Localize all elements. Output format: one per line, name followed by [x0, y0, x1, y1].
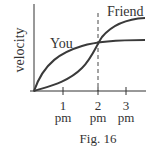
label-you: You: [50, 36, 73, 51]
curve-friend: [34, 18, 145, 91]
tick-unit-1: pm: [55, 110, 72, 125]
tick-unit-3: pm: [118, 110, 135, 125]
y-axis-label: velocity: [12, 27, 27, 72]
figure-caption: Fig. 16: [80, 131, 117, 146]
label-friend: Friend: [107, 4, 144, 19]
tick-unit-2: pm: [90, 110, 107, 125]
velocity-diagram: velocity You Friend 1 pm 2 pm 3 pm Fig. …: [0, 0, 149, 154]
